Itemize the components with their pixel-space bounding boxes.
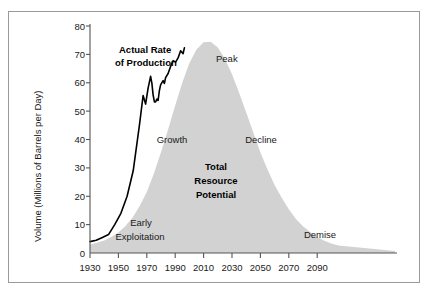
- y-tick-label-10: 10: [74, 219, 85, 230]
- y-tick-marks: [86, 26, 90, 225]
- annotation-growth: Growth: [157, 134, 188, 145]
- x-tick-marks: [90, 253, 317, 258]
- annotation-potential: Potential: [196, 189, 236, 200]
- annotation-decline: Decline: [245, 134, 277, 145]
- annotation-demise: Demise: [304, 229, 336, 240]
- y-tick-label-70: 70: [74, 49, 85, 60]
- x-tick-label-1930: 1930: [79, 262, 100, 273]
- y-tick-label-0: 0: [80, 248, 85, 259]
- annotation-early: Early: [130, 217, 152, 228]
- x-tick-label-2050: 2050: [250, 262, 271, 273]
- annotation-actual-rate-line1: Actual Rate: [119, 44, 171, 55]
- x-tick-label-2070: 2070: [278, 262, 299, 273]
- x-tick-label-2030: 2030: [221, 262, 242, 273]
- hubbert-peak-chart: Volume (Millions of Barrels per Day) 80 …: [0, 0, 429, 295]
- annotation-actual-rate-line2: of Production: [115, 57, 177, 68]
- chart-figure: Volume (Millions of Barrels per Day) 80 …: [0, 0, 429, 295]
- annotation-peak: Peak: [216, 53, 238, 64]
- x-tick-label-2090: 2090: [307, 262, 328, 273]
- y-tick-label-80: 80: [74, 21, 85, 32]
- y-tick-label-60: 60: [74, 77, 85, 88]
- x-tick-label-1950: 1950: [108, 262, 129, 273]
- x-tick-label-1970: 1970: [136, 262, 157, 273]
- annotation-exploitation: Exploitation: [115, 231, 164, 242]
- annotation-resource: Resource: [194, 175, 237, 186]
- y-tick-label-20: 20: [74, 191, 85, 202]
- x-tick-label-1990: 1990: [165, 262, 186, 273]
- annotation-total: Total: [205, 161, 227, 172]
- y-axis-title: Volume (Millions of Barrels per Day): [32, 90, 43, 242]
- y-tick-label-50: 50: [74, 106, 85, 117]
- y-tick-label-30: 30: [74, 162, 85, 173]
- x-tick-label-2010: 2010: [193, 262, 214, 273]
- y-tick-label-40: 40: [74, 134, 85, 145]
